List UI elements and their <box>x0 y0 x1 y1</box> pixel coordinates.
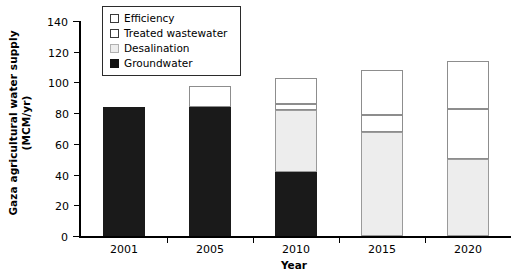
y-axis-tick-label: 0 <box>61 231 68 244</box>
y-axis-tick: 100 <box>74 82 81 83</box>
legend-label: Groundwater <box>124 58 193 69</box>
y-axis-tick: 140 <box>73 21 81 22</box>
y-axis-title-line1: Gaza agricultural water supply <box>7 30 19 215</box>
bar-segment-groundwater <box>103 107 145 236</box>
bar-2005 <box>189 86 231 237</box>
legend-item-desalination: Desalination <box>110 41 234 56</box>
y-axis-tick-label: 40 <box>55 169 69 182</box>
legend-item-treated-wastewater: Treated wastewater <box>110 26 234 41</box>
legend-swatch-treated-wastewater <box>110 29 119 38</box>
x-axis-tick <box>425 236 426 243</box>
bar-segment-treated-wastewater <box>447 109 489 160</box>
y-axis-tick-label: 60 <box>55 138 69 151</box>
y-axis-tick: 60 <box>74 144 81 145</box>
bar-segment-treated-wastewater <box>361 115 403 132</box>
bar-segment-desalination <box>447 159 489 236</box>
y-axis-tick-label: 80 <box>55 108 69 121</box>
y-axis-tick-label: 20 <box>55 200 69 213</box>
bar-2015 <box>361 70 403 236</box>
bar-segment-groundwater <box>275 172 317 237</box>
y-axis-title: Gaza agricultural water supply (MCM/yr) <box>0 0 40 245</box>
legend-label: Efficiency <box>124 13 175 24</box>
legend-label: Treated wastewater <box>124 28 227 39</box>
x-axis-tick-label: 2005 <box>196 243 224 256</box>
bar-segment-desalination <box>275 110 317 171</box>
y-axis-tick: 20 <box>74 205 81 206</box>
x-axis-tick <box>167 236 168 243</box>
bar-segment-efficiency <box>361 70 403 115</box>
y-axis-tick: 0 <box>73 236 81 237</box>
y-axis-tick-label: 100 <box>48 77 69 90</box>
bar-2001 <box>103 107 145 236</box>
bar-2020 <box>447 61 489 236</box>
bar-segment-desalination <box>361 132 403 236</box>
y-axis-tick: 120 <box>74 52 81 53</box>
bar-segment-treated-wastewater <box>275 104 317 110</box>
legend-item-efficiency: Efficiency <box>110 11 234 26</box>
x-axis-tick-label: 2001 <box>110 243 138 256</box>
x-axis-tick <box>339 236 340 243</box>
x-axis-tick-label: 2015 <box>368 243 396 256</box>
legend-swatch-desalination <box>110 44 119 53</box>
x-axis-tick <box>253 236 254 243</box>
x-axis-title: Year <box>79 259 509 271</box>
y-axis-tick-label: 140 <box>47 16 68 29</box>
chart-legend: EfficiencyTreated wastewaterDesalination… <box>102 6 241 76</box>
y-axis-tick: 80 <box>74 113 81 114</box>
legend-item-groundwater: Groundwater <box>110 56 234 71</box>
legend-swatch-groundwater <box>110 59 119 68</box>
y-axis-tick-label: 120 <box>48 46 69 59</box>
bar-segment-groundwater <box>189 107 231 236</box>
bar-segment-efficiency <box>275 78 317 104</box>
bar-segment-treated-wastewater <box>189 86 231 108</box>
bar-segment-efficiency <box>447 61 489 109</box>
chart-figure: Gaza agricultural water supply (MCM/yr) … <box>0 0 525 279</box>
y-axis-title-line2: (MCM/yr) <box>20 30 33 215</box>
x-axis-tick-label: 2020 <box>454 243 482 256</box>
x-axis-tick-label: 2010 <box>282 243 310 256</box>
legend-swatch-efficiency <box>110 14 119 23</box>
legend-label: Desalination <box>124 43 190 54</box>
y-axis-tick: 40 <box>74 175 81 176</box>
bar-2010 <box>275 78 317 236</box>
